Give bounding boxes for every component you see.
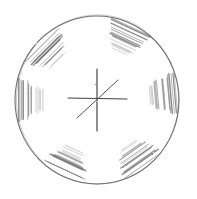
hatched-region-right xyxy=(149,73,178,114)
hatched-region-left xyxy=(19,79,43,122)
pencil-sketch-canvas xyxy=(0,0,197,199)
center-cross-icon xyxy=(68,69,127,131)
hatched-region-bottom xyxy=(44,145,86,179)
hatched-region-lower-right xyxy=(120,140,161,178)
